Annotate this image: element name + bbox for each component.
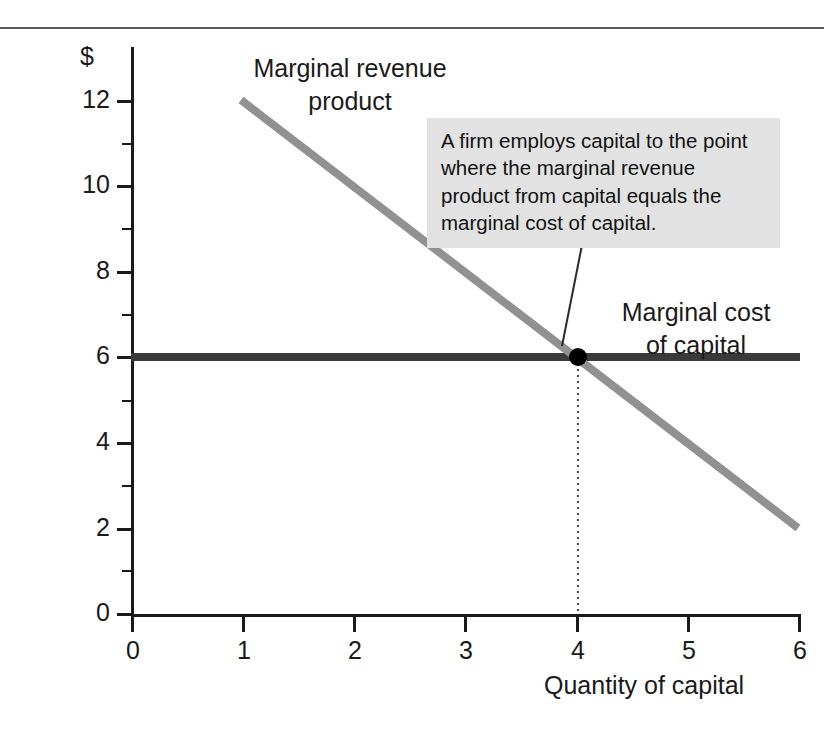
marginal-revenue-product-label: Marginal revenue product (222, 52, 478, 117)
annotation-callout-box: A firm employs capital to the point wher… (427, 118, 780, 248)
marginal-cost-label: Marginal cost of capital (580, 296, 812, 361)
figure-canvas: 0 2 4 6 8 10 12 0 1 2 3 4 5 6 $ Quantity… (0, 0, 824, 736)
